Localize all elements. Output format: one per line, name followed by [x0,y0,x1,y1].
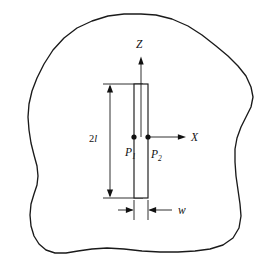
length-dimension-symbol: l [94,133,97,144]
width-dimension-group: w [118,200,186,220]
slot-in-body-diagram: 2l w Z X [0,0,268,269]
point-p1-subscript: 1 [132,152,136,161]
x-axis-label: X [190,131,199,143]
x-axis-arrowhead [178,134,186,139]
x-axis-group: X [149,131,199,143]
z-axis-arrowhead [138,57,143,65]
z-axis-label: Z [136,38,143,50]
point-p1-dot [131,134,136,139]
length-arrowhead-top [107,85,113,93]
width-arrowhead-left [126,207,134,213]
width-dimension-label: w [178,204,186,216]
point-p2-label: P2 [150,148,162,163]
point-p2-subscript: 2 [158,154,162,163]
figure-container: 2l w Z X [0,0,268,269]
length-arrowhead-bottom [107,190,113,198]
width-arrowhead-right [148,207,156,213]
point-p1-base: P [124,146,132,158]
length-dimension-label: 2l [89,133,97,144]
point-p2-dot [145,134,150,139]
point-p2-base: P [150,148,158,160]
